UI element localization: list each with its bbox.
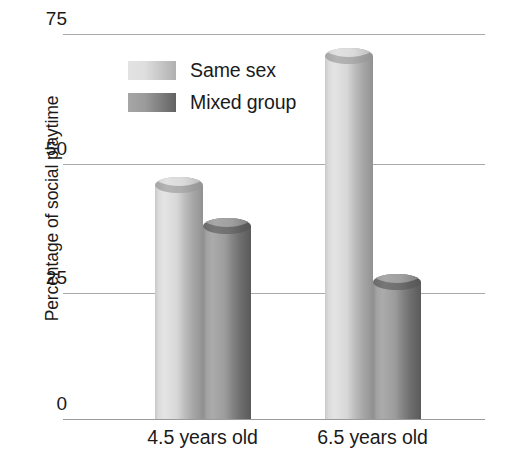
legend-swatch-mixed-group bbox=[128, 93, 176, 112]
bar-body bbox=[203, 226, 251, 419]
bar-mixed-group-4.5 bbox=[203, 226, 251, 419]
legend-label-same-sex: Same sex bbox=[190, 59, 276, 82]
bar-body bbox=[325, 56, 373, 419]
bar-top-ellipse bbox=[373, 274, 421, 290]
y-tick-label-50: 50 bbox=[25, 138, 67, 160]
legend: Same sex Mixed group bbox=[128, 56, 296, 120]
gridline-25 bbox=[63, 293, 485, 294]
x-tick-label-group2: 6.5 years old bbox=[310, 426, 435, 449]
x-tick-label-group1: 4.5 years old bbox=[140, 426, 265, 449]
bar-same-sex-6.5 bbox=[325, 56, 373, 419]
legend-swatch-same-sex bbox=[128, 61, 176, 80]
plot-area: 75 50 25 0 bbox=[0, 0, 505, 457]
legend-item-same-sex: Same sex bbox=[128, 56, 296, 84]
legend-label-mixed-group: Mixed group bbox=[190, 91, 296, 114]
bar-same-sex-4.5 bbox=[155, 185, 203, 419]
gridline-50 bbox=[63, 164, 485, 165]
bar-top-ellipse bbox=[325, 48, 373, 64]
y-tick-label-25: 25 bbox=[25, 267, 67, 289]
gridline-0-baseline bbox=[63, 419, 485, 420]
y-tick-label-75: 75 bbox=[25, 8, 67, 30]
bar-body bbox=[373, 282, 421, 419]
y-tick-label-0: 0 bbox=[25, 393, 67, 415]
bar-top-ellipse bbox=[155, 177, 203, 193]
bar-body bbox=[155, 185, 203, 419]
bar-chart: Percentage of social playtime 75 50 25 0 bbox=[0, 0, 505, 457]
legend-item-mixed-group: Mixed group bbox=[128, 88, 296, 116]
bar-mixed-group-6.5 bbox=[373, 282, 421, 419]
gridline-75 bbox=[63, 34, 485, 35]
bar-top-ellipse bbox=[203, 218, 251, 234]
